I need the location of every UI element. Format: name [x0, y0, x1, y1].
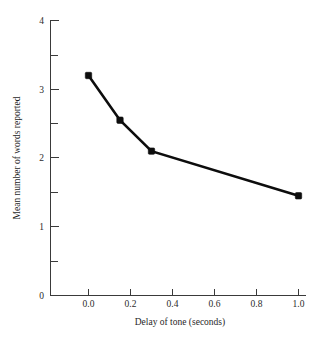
- x-tick-label-3: 0.6: [209, 299, 221, 309]
- data-point-marker: [85, 72, 91, 78]
- x-tick-label-0: 0.0: [83, 299, 95, 309]
- y-tick-label-4: 4: [39, 16, 44, 26]
- y-axis-title: Mean number of words reported: [12, 96, 22, 219]
- x-tick-label-4: 0.8: [251, 299, 263, 309]
- x-tick-label-5: 1.0: [293, 299, 305, 309]
- data-point-marker: [117, 117, 123, 123]
- x-tick-label-1: 0.2: [125, 299, 137, 309]
- data-point-marker: [295, 193, 301, 199]
- data-point-marker: [148, 148, 154, 154]
- y-tick-label-1: 1: [39, 222, 44, 232]
- chart-figure: 4 3 2 1 0 0.0 0.2 0.4 0.6 0.8 1.0 D: [0, 0, 328, 339]
- x-tick-label-2: 0.4: [167, 299, 179, 309]
- y-tick-label-3: 3: [39, 85, 44, 95]
- line-chart-canvas: 4 3 2 1 0 0.0 0.2 0.4 0.6 0.8 1.0 D: [0, 0, 328, 339]
- chart-background: [0, 0, 328, 339]
- y-tick-label-2: 2: [39, 153, 44, 163]
- x-axis-title: Delay of tone (seconds): [135, 317, 225, 328]
- y-tick-label-0: 0: [39, 291, 44, 301]
